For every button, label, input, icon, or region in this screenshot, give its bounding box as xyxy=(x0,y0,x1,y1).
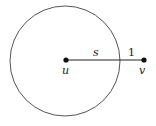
diagram-canvas: s 1 u v xyxy=(0,0,156,126)
label-v: v xyxy=(139,64,146,77)
label-u: u xyxy=(62,64,69,77)
point-v xyxy=(141,57,146,62)
label-one: 1 xyxy=(128,46,135,59)
point-u xyxy=(63,57,68,62)
label-s: s xyxy=(93,46,99,59)
